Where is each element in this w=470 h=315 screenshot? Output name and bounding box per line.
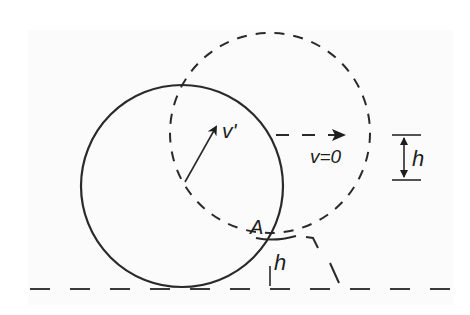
label-v-prime: v': [222, 119, 238, 142]
label-dimension-h: h: [412, 146, 424, 171]
label-v-zero: v=0: [310, 146, 342, 167]
diagram-canvas: v' v=0 A h h: [0, 0, 470, 315]
paper-background: [28, 30, 453, 305]
label-step-height: h: [274, 250, 286, 275]
label-contact-point-a: A: [249, 216, 263, 238]
